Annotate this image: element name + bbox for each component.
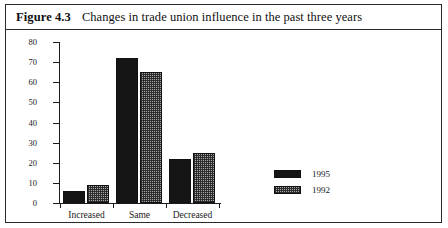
x-axis-line <box>59 203 221 204</box>
bars-layer <box>60 42 221 203</box>
y-axis-tick <box>53 143 59 144</box>
legend-item-1995: 1995 <box>274 166 364 182</box>
legend-swatch-1995 <box>274 170 301 178</box>
y-axis-tick <box>53 62 59 63</box>
legend-label-1992: 1992 <box>312 186 330 195</box>
y-axis-tick <box>53 123 59 124</box>
y-axis-tick <box>53 163 59 164</box>
bar-increased-1992 <box>87 185 109 203</box>
y-axis-tick <box>53 183 59 184</box>
y-axis-tick-label: 40 <box>15 119 37 128</box>
legend-item-1992: 1992 <box>274 182 364 198</box>
bar-same-1995 <box>116 58 138 203</box>
y-axis-tick <box>53 42 59 43</box>
x-axis-tick <box>113 204 114 208</box>
bar-increased-1995 <box>63 191 85 203</box>
y-axis-tick-label: 80 <box>15 38 37 47</box>
bar-same-1992 <box>140 72 162 203</box>
y-axis-tick <box>53 203 59 204</box>
x-axis-tick <box>219 204 220 208</box>
legend-label-1995: 1995 <box>312 170 330 179</box>
bar-decreased-1995 <box>169 159 191 203</box>
figure-number-label: Figure 4.3 <box>16 10 71 25</box>
bar-decreased-1992 <box>193 153 215 203</box>
y-axis-tick-label: 50 <box>15 98 37 107</box>
chart-legend: 19951992 <box>274 166 364 198</box>
chart-plot-area: 80706050403020100 IncreasedSameDecreased… <box>6 30 441 223</box>
y-axis-tick-label: 20 <box>15 159 37 168</box>
figure-title-bar: Figure 4.3 Changes in trade union influe… <box>6 5 441 30</box>
y-axis-tick <box>53 82 59 83</box>
x-axis-label-decreased: Decreased <box>166 211 219 221</box>
y-axis-tick-label: 10 <box>15 179 37 188</box>
x-axis-label-increased: Increased <box>60 211 113 221</box>
y-axis-tick-label: 60 <box>15 78 37 87</box>
figure-caption: Changes in trade union influence in the … <box>82 10 362 25</box>
y-axis-tick-label: 30 <box>15 139 37 148</box>
y-axis-tick-label: 0 <box>15 199 37 208</box>
x-axis-tick <box>60 204 61 208</box>
y-axis-tick <box>53 102 59 103</box>
x-axis-tick <box>166 204 167 208</box>
y-axis-tick-label: 70 <box>15 58 37 67</box>
x-axis-label-same: Same <box>113 211 166 221</box>
legend-swatch-1992 <box>274 186 301 194</box>
figure-frame: Figure 4.3 Changes in trade union influe… <box>5 4 442 223</box>
